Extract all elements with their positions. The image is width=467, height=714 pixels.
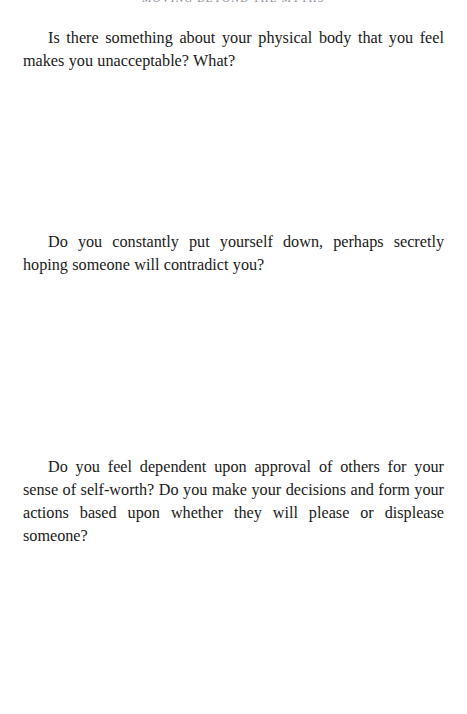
running-head: MOVING BEYOND THE MYTHS [0, 0, 467, 4]
book-page: MOVING BEYOND THE MYTHS Is there somethi… [0, 0, 467, 714]
question-paragraph-put-yourself-down: Do you constantly put yourself down, per… [23, 231, 444, 277]
running-head-container: MOVING BEYOND THE MYTHS [0, 0, 467, 7]
question-paragraph-dependent-on-approval: Do you feel dependent upon approval of o… [23, 456, 444, 548]
question-paragraph-physical-body: Is there something about your physical b… [23, 27, 444, 73]
